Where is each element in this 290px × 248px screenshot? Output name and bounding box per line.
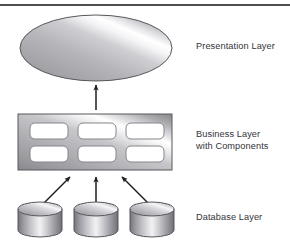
layer-diagram-figure: Presentation Layer Business Layer with C… — [0, 0, 290, 248]
database-cylinder-3 — [130, 202, 174, 237]
database-layer-label: Database Layer — [196, 212, 262, 224]
business-layer-label: Business Layer with Components — [196, 129, 268, 152]
component-5 — [78, 146, 116, 162]
database-cylinder-1 — [18, 202, 62, 237]
component-2 — [78, 123, 116, 139]
component-6 — [126, 146, 164, 162]
component-4 — [30, 146, 68, 162]
component-1 — [30, 123, 68, 139]
diagram-canvas — [0, 0, 290, 248]
business-layer-shape — [18, 114, 172, 170]
presentation-layer-shape — [20, 15, 172, 81]
arrow-db1-to-business — [44, 177, 70, 203]
component-3 — [126, 123, 164, 139]
presentation-layer-label: Presentation Layer — [196, 41, 275, 53]
arrow-db3-to-business — [122, 177, 148, 203]
database-cylinder-2 — [74, 202, 118, 237]
